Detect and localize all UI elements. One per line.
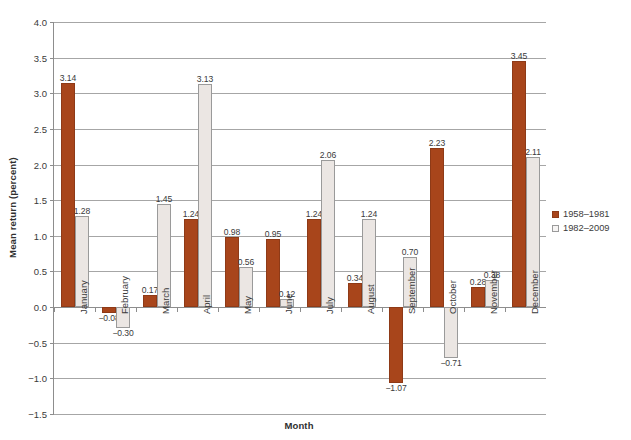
legend-item[interactable]: 1958–1981 (552, 207, 610, 221)
bar-value-label: 2.23 (429, 138, 445, 148)
chart-legend: 1958–19811982–2009 (552, 207, 610, 235)
gridline (54, 414, 546, 415)
chart-figure: Mean return (percent) 4.03.53.02.52.01.5… (0, 0, 631, 440)
x-axis-tick-mark (54, 307, 55, 312)
bar-value-label: −1.07 (385, 383, 406, 393)
bar-groups: 3.141.28−0.08−0.300.171.451.243.130.980.… (54, 22, 546, 414)
x-axis-tick-label: March (160, 288, 171, 314)
y-axis-title-text: Mean return (percent) (7, 157, 18, 258)
bar-group: 0.341.24 (341, 22, 382, 414)
bar-value-label: 1.28 (74, 206, 90, 216)
y-axis-tick-label: 2.5 (34, 123, 47, 134)
bar-value-label: 0.17 (142, 285, 158, 295)
bar-value-label: 0.34 (347, 273, 363, 283)
y-axis-tick-label: 2.0 (34, 159, 47, 170)
bar-value-label: 2.06 (320, 150, 336, 160)
x-axis-tick-mark (136, 307, 137, 312)
y-axis-tick-label: 4.0 (34, 17, 47, 28)
x-axis-tick-label: September (406, 268, 417, 314)
bar-value-label: 3.45 (511, 51, 527, 61)
x-axis-tick-label: June (283, 293, 294, 314)
bar[interactable]: 0.17 (143, 295, 157, 307)
x-axis-tick-mark (177, 307, 178, 312)
bar-group: 0.980.56 (218, 22, 259, 414)
bar-group: 1.242.06 (300, 22, 341, 414)
bar-value-label: 0.56 (238, 257, 254, 267)
bar-value-label: 1.45 (156, 194, 172, 204)
bar-value-label: −0.30 (112, 328, 133, 338)
x-axis-tick-mark (218, 307, 219, 312)
bar-value-label: 1.24 (183, 209, 199, 219)
x-axis-tick-label: October (447, 280, 458, 314)
bar[interactable]: 1.24 (307, 219, 321, 307)
bar[interactable]: 3.45 (512, 61, 526, 307)
x-axis-tick-label: May (242, 296, 253, 314)
x-axis-tick-label: November (488, 270, 499, 314)
bar[interactable]: 3.13 (198, 84, 212, 307)
x-axis-title: Month (53, 420, 545, 431)
x-axis-tick-label: July (324, 297, 335, 314)
legend-label: 1958–1981 (563, 209, 610, 219)
bar-value-label: 1.24 (306, 209, 322, 219)
bar-group: 0.950.12 (259, 22, 300, 414)
x-axis-tick-label: February (119, 276, 130, 314)
x-axis-tick-mark (300, 307, 301, 312)
y-axis-tick-label: −0.5 (28, 337, 47, 348)
x-axis-tick-mark (505, 307, 506, 312)
y-axis-title: Mean return (percent) (2, 0, 22, 414)
y-axis-tick-label: 0.5 (34, 266, 47, 277)
legend-item[interactable]: 1982–2009 (552, 221, 610, 235)
bar-group: −1.070.70 (382, 22, 423, 414)
x-axis-tick-mark (423, 307, 424, 312)
bar[interactable]: 3.14 (61, 83, 75, 307)
y-axis-tick-label: 3.0 (34, 88, 47, 99)
bar-value-label: 0.70 (402, 247, 418, 257)
x-axis-tick-label: January (78, 280, 89, 314)
bar-group: 1.243.13 (177, 22, 218, 414)
bar[interactable]: 2.23 (430, 148, 444, 307)
y-axis-tick-label: −1.5 (28, 409, 47, 420)
bar[interactable]: 0.34 (348, 283, 362, 307)
y-axis-tick-label: −1.0 (28, 373, 47, 384)
bar[interactable]: −1.07 (389, 307, 403, 383)
bar[interactable]: −0.08 (102, 307, 116, 313)
bar[interactable]: 2.06 (321, 160, 335, 307)
y-axis-tick-mark (50, 414, 54, 415)
bar-group: 3.141.28 (54, 22, 95, 414)
y-axis-tick-label: 0.0 (34, 302, 47, 313)
bar-value-label: 3.13 (197, 74, 213, 84)
bar-group: 0.280.38 (464, 22, 505, 414)
plot-area: 4.03.53.02.52.01.51.00.50.0−0.5−1.0−1.5 … (53, 22, 546, 414)
bar-value-label: 2.11 (525, 147, 541, 157)
y-axis-tick-label: 1.5 (34, 195, 47, 206)
bar-group: 3.452.11 (505, 22, 546, 414)
bar-value-label: −0.71 (440, 358, 461, 368)
legend-swatch-icon (552, 211, 559, 218)
bar[interactable]: 0.98 (225, 237, 239, 307)
y-axis-tick-label: 1.0 (34, 230, 47, 241)
legend-label: 1982–2009 (563, 223, 610, 233)
x-axis-tick-label: April (201, 295, 212, 314)
y-axis-tick-label: 3.5 (34, 52, 47, 63)
x-axis-tick-label: December (529, 270, 540, 314)
bar-value-label: 3.14 (60, 73, 76, 83)
bar-group: −0.08−0.30 (95, 22, 136, 414)
bar[interactable]: 0.28 (471, 287, 485, 307)
x-axis-tick-mark (464, 307, 465, 312)
x-axis-tick-mark (382, 307, 383, 312)
x-axis-tick-mark (341, 307, 342, 312)
bar-value-label: 1.24 (361, 209, 377, 219)
bar[interactable]: −0.71 (444, 307, 458, 358)
bar-value-label: 0.98 (224, 227, 240, 237)
x-axis-tick-mark (95, 307, 96, 312)
bar[interactable]: 1.24 (184, 219, 198, 307)
x-axis-tick-label: August (365, 285, 376, 315)
bar-group: 2.23−0.71 (423, 22, 464, 414)
x-axis-tick-mark (259, 307, 260, 312)
legend-swatch-icon (552, 225, 559, 232)
bar-group: 0.171.45 (136, 22, 177, 414)
bar-value-label: 0.95 (265, 229, 281, 239)
